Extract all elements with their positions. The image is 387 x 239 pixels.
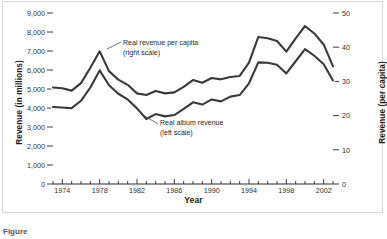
chart-frame: Revenue (in millions) Revenue (per capit… bbox=[2, 1, 383, 213]
y-axis-right-tick-0: 0 bbox=[342, 180, 346, 189]
x-axis-title: Year bbox=[3, 195, 384, 205]
y-axis-left-tick-7,000: 7,000 bbox=[3, 47, 45, 56]
leader-line-per-capita bbox=[107, 42, 121, 49]
x-axis-tick-1978: 1978 bbox=[85, 186, 115, 195]
y-axis-left-tick-5,000: 5,000 bbox=[3, 85, 45, 94]
figure-caption: Figure bbox=[3, 227, 123, 236]
y-axis-left-tick-8,000: 8,000 bbox=[3, 28, 45, 37]
annotation-real-revenue-per-capita: Real revenue per capita (right scale) bbox=[123, 39, 198, 58]
series-line-real-revenue-per-capita bbox=[53, 26, 333, 95]
y-axis-left-tick-3,000: 3,000 bbox=[3, 123, 45, 132]
y-left-tick-marks bbox=[47, 13, 53, 184]
annotation-album-line1: Real album revenue bbox=[160, 119, 224, 129]
x-axis-tick-1998: 1998 bbox=[271, 186, 301, 195]
chart-plot-area bbox=[3, 2, 384, 214]
y-axis-right-tick-40: 40 bbox=[342, 43, 350, 52]
y-axis-left-tick-6,000: 6,000 bbox=[3, 66, 45, 75]
x-axis-tick-1994: 1994 bbox=[234, 186, 264, 195]
y-axis-right-tick-50: 50 bbox=[342, 9, 350, 18]
x-axis-tick-1974: 1974 bbox=[47, 186, 77, 195]
y-axis-left-tick-4,000: 4,000 bbox=[3, 104, 45, 113]
y-axis-right-tick-30: 30 bbox=[342, 77, 350, 86]
x-axis-tick-1990: 1990 bbox=[197, 186, 227, 195]
y-axis-left-tick-0: 0 bbox=[3, 180, 45, 189]
y-axis-right-tick-20: 20 bbox=[342, 111, 350, 120]
x-tick-marks bbox=[53, 179, 333, 184]
annotation-album-line2: (left scale) bbox=[160, 129, 224, 139]
annotation-real-album-revenue: Real album revenue (left scale) bbox=[160, 119, 224, 138]
y-axis-left-tick-2,000: 2,000 bbox=[3, 142, 45, 151]
x-axis-tick-2002: 2002 bbox=[309, 186, 339, 195]
y-right-tick-marks bbox=[333, 13, 339, 184]
figure-root: Revenue (in millions) Revenue (per capit… bbox=[0, 0, 387, 239]
annotation-per-capita-line1: Real revenue per capita bbox=[123, 39, 198, 49]
y-axis-right-title: Revenue (per capita) bbox=[378, 43, 387, 163]
y-axis-left-tick-1,000: 1,000 bbox=[3, 161, 45, 170]
y-axis-right-tick-10: 10 bbox=[342, 146, 350, 155]
x-axis-tick-1982: 1982 bbox=[122, 186, 152, 195]
x-axis-tick-1986: 1986 bbox=[159, 186, 189, 195]
annotation-per-capita-line2: (right scale) bbox=[123, 49, 198, 59]
y-axis-left-tick-9,000: 9,000 bbox=[3, 9, 45, 18]
